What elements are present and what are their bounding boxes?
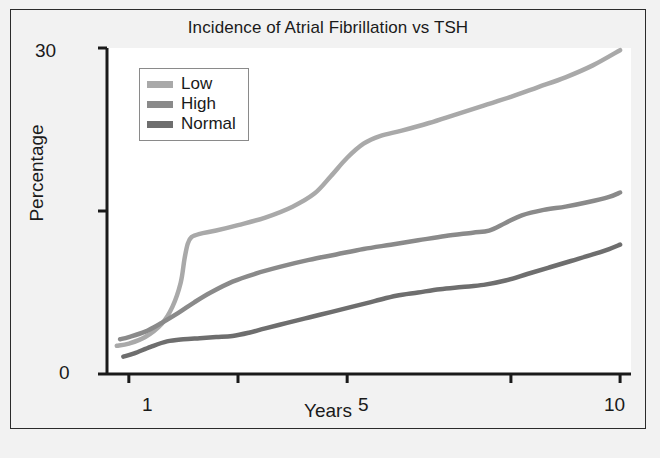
legend-label-high: High	[181, 95, 216, 113]
legend-label-normal: Normal	[181, 115, 236, 133]
plot-area	[11, 10, 647, 430]
legend-item-normal: Normal	[147, 114, 241, 134]
figure-inner: Incidence of Atrial Fibrillation vs TSH …	[11, 10, 645, 428]
legend-swatch-high	[147, 101, 173, 108]
figure-panel: Incidence of Atrial Fibrillation vs TSH …	[10, 9, 646, 429]
legend: Low High Normal	[139, 68, 249, 141]
legend-label-low: Low	[181, 75, 212, 93]
legend-swatch-normal	[147, 121, 173, 128]
legend-item-low: Low	[147, 74, 241, 94]
legend-swatch-low	[147, 81, 173, 88]
legend-item-high: High	[147, 94, 241, 114]
